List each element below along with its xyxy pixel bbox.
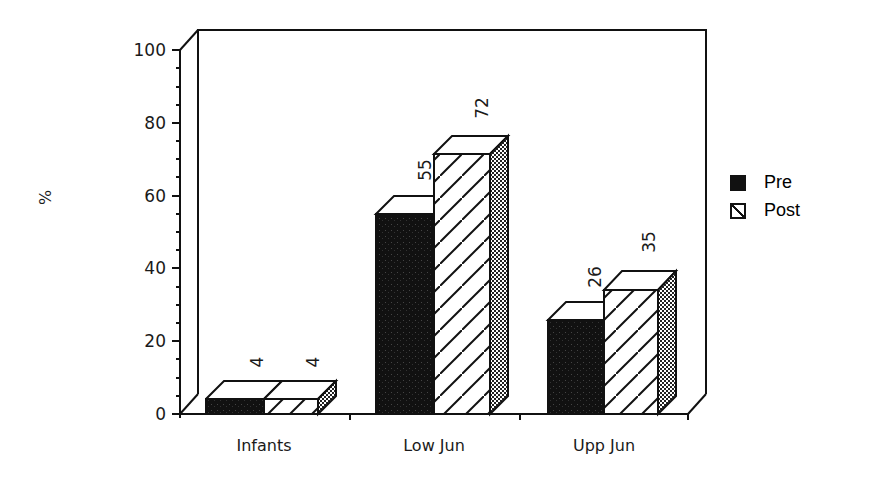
bar-group-low-jun	[376, 136, 508, 414]
y-tick-label: 0	[126, 404, 166, 424]
y-axis-title: %	[36, 190, 55, 205]
legend-label: Pre	[764, 172, 792, 193]
y-tick-label: 20	[126, 331, 166, 351]
bar-upp-jun-pre	[548, 320, 604, 414]
x-category-label: Infants	[204, 436, 324, 455]
value-label-infants-post: 4	[303, 347, 323, 377]
value-label-low-jun-pre: 55	[415, 155, 435, 185]
y-tick-label: 40	[126, 258, 166, 278]
bar-infants-pre	[206, 399, 264, 414]
x-category-label: Low Jun	[374, 436, 494, 455]
x-category-label: Upp Jun	[544, 436, 664, 455]
legend-item-pre: Pre	[730, 172, 792, 193]
y-axis	[172, 50, 180, 418]
bar-group-infants	[206, 381, 336, 414]
legend-label: Post	[764, 200, 800, 221]
y-tick-label: 60	[126, 186, 166, 206]
value-label-upp-jun-post: 35	[639, 227, 659, 257]
bar-group-upp-jun	[548, 271, 676, 414]
bar-low-jun-pre	[376, 214, 434, 414]
value-label-upp-jun-pre: 26	[585, 262, 605, 292]
legend-item-post: Post	[730, 200, 800, 221]
legend-swatch-solid-icon	[730, 175, 746, 191]
value-label-low-jun-post: 72	[472, 93, 492, 123]
y-tick-label: 80	[126, 113, 166, 133]
legend-swatch-hatch-icon	[730, 203, 746, 219]
value-label-infants-pre: 4	[247, 347, 267, 377]
y-tick-label: 100	[126, 40, 166, 60]
